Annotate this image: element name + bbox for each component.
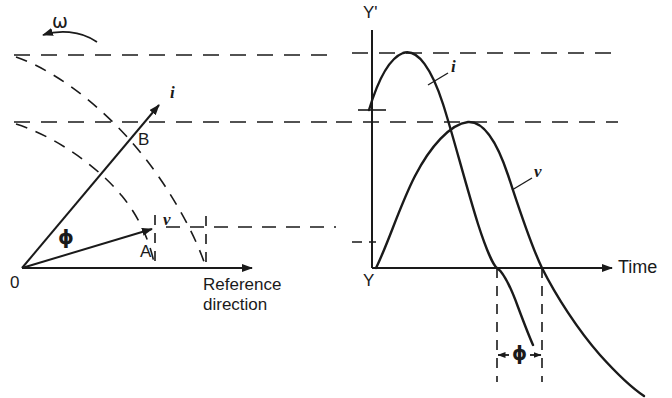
y-axis-origin-label: Y <box>363 272 374 289</box>
origin-label: 0 <box>10 274 19 291</box>
figure-canvas: ω i B ϕ v A 0 Reference direction Y' i v… <box>0 0 672 398</box>
omega-rotation-arrow <box>43 32 97 42</box>
phase-gap-label: ϕ <box>512 344 527 363</box>
current-curve-label: i <box>451 58 456 75</box>
voltage-magnitude-label: A <box>140 243 151 260</box>
phase-angle-label: ϕ <box>58 227 74 247</box>
omega-label: ω <box>52 12 68 31</box>
reference-direction-label-line2: direction <box>203 296 267 313</box>
figure-vector-layer <box>0 0 672 398</box>
time-axis-label: Time <box>618 258 657 276</box>
current-phasor-label: i <box>170 84 175 101</box>
voltage-phasor-arrow <box>22 229 152 268</box>
voltage-curve-label: v <box>534 163 542 180</box>
voltage-waveform-curve <box>376 122 644 396</box>
current-magnitude-label: B <box>138 131 149 148</box>
waveform-plot-group <box>336 30 644 396</box>
voltage-curve-leader-line <box>512 178 532 190</box>
reference-direction-label-line1: Reference <box>203 276 281 293</box>
y-axis-top-label: Y' <box>363 4 378 21</box>
current-waveform-curve <box>369 52 533 345</box>
voltage-phasor-label: v <box>163 211 171 228</box>
